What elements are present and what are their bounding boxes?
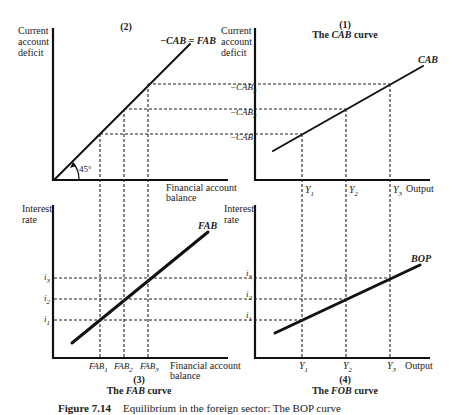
panel-3-line-label: FAB — [197, 220, 217, 231]
fab-curve — [72, 232, 208, 343]
panel-4-line-label: BOP — [410, 253, 432, 264]
tick-y1-top: Y1 — [305, 184, 314, 198]
tick-i2-right: i2 — [246, 289, 253, 302]
figure-caption: Figure 7.14Equilibrium in the foreign se… — [58, 402, 341, 414]
panel-3-x-label-2: balance — [170, 370, 201, 381]
panel-2-x-label-2: balance — [166, 192, 197, 203]
panel-1-line-label: CAB — [418, 54, 438, 65]
panel-1-y-label-1: Current — [221, 25, 252, 36]
panel-2-45deg-line — [55, 44, 190, 179]
panel-2-line-label: −CAB = FAB — [160, 35, 216, 46]
panel-3-y-label-1: Interest — [22, 203, 52, 214]
panel-2-y-label-3: deficit — [18, 47, 44, 58]
panel-4-y-label-2: rate — [224, 214, 240, 225]
panel-2-number: (2) — [120, 21, 132, 33]
tick-y3-bottom: Y3 — [387, 360, 397, 374]
panel-2-y-label-2: account — [18, 36, 49, 47]
tick-i3-left: i3 — [44, 272, 51, 285]
panel-4-x-label: Output — [405, 360, 433, 371]
panel-1-x-label: Output — [406, 183, 434, 194]
bop-diagram: (2) Current account deficit −CAB = FAB 4… — [0, 0, 453, 415]
tick-i1-left: i1 — [44, 314, 50, 327]
panel-3-y-label-2: rate — [22, 214, 38, 225]
tick-i3-right: i3 — [246, 268, 253, 281]
panel-3-title: The FAB curve — [107, 385, 172, 396]
tick-fab1: FAB1 — [88, 361, 108, 374]
tick-y2-bottom: Y2 — [343, 360, 353, 374]
tick-fab3: FAB3 — [139, 361, 159, 374]
angle-label: 45° — [79, 164, 92, 174]
panel-1-y-label-2: account — [221, 36, 252, 47]
tick-i2-left: i2 — [44, 293, 51, 306]
tick-y1-bottom: Y1 — [299, 360, 308, 374]
tick-y3-top: Y3 — [393, 184, 403, 198]
panel-1-title: The CAB curve — [312, 29, 378, 40]
tick-y2-top: Y2 — [349, 184, 359, 198]
panel-2-y-label-1: Current — [18, 25, 49, 36]
panel-4-title: The FOB curve — [312, 385, 379, 396]
tick-i1-right: i1 — [246, 310, 252, 323]
panel-2: (2) Current account deficit −CAB = FAB 4… — [18, 21, 237, 203]
panel-4-y-label-1: Interest — [224, 203, 254, 214]
tick-fab2: FAB2 — [113, 361, 133, 374]
panel-1-y-label-3: deficit — [221, 47, 247, 58]
